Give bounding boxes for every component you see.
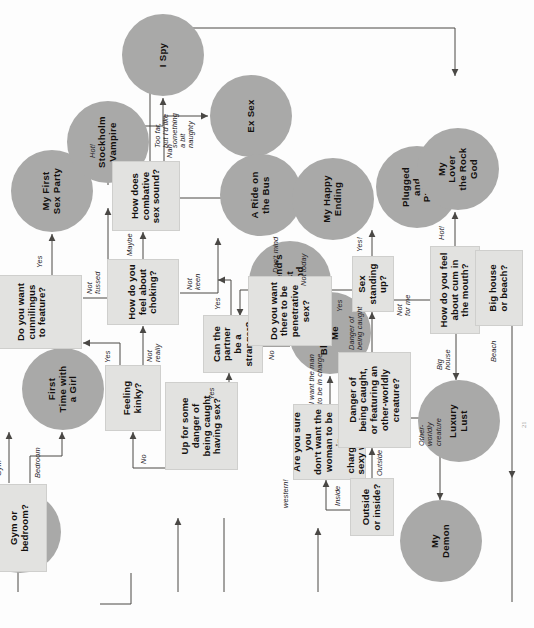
outcome-label: My Demon bbox=[430, 524, 451, 558]
edge-label-not-today: Not today bbox=[300, 253, 308, 286]
flowchart-page: Personal Training First Time with a Girl… bbox=[0, 0, 534, 628]
edge-label-yes-stranger: Yes bbox=[214, 297, 222, 310]
edge-label-not-fussed: Not fussed bbox=[86, 272, 103, 294]
decision-label: Sex standing up? bbox=[357, 259, 389, 309]
edge-label-man-in-charge: I want the man to be in charge bbox=[308, 354, 325, 404]
edge-label-hot-vampire: Hot! bbox=[89, 144, 97, 158]
edge-label-no-stranger: No bbox=[268, 350, 276, 360]
outcome-label: My Happy Ending bbox=[322, 175, 343, 223]
outcome-label: Ex Sex bbox=[246, 99, 257, 132]
decision-label: Do you want cunnilingus to feature? bbox=[16, 283, 48, 341]
decision-cunnilingus[interactable]: Do you want cunnilingus to feature? bbox=[0, 275, 82, 349]
edge-label-western: western! bbox=[282, 479, 290, 508]
outcome-ex-sex[interactable]: Ex Sex bbox=[210, 75, 292, 157]
decision-label: How do you feel about choking? bbox=[127, 264, 159, 319]
edge-label-maybe: Maybe bbox=[126, 233, 134, 256]
decision-label: How do you feel about cum in the mouth? bbox=[439, 252, 471, 327]
edge-label-not-keen: Not keen bbox=[186, 274, 203, 290]
outcome-label: My First Sex Party bbox=[41, 168, 62, 214]
decision-choking[interactable]: How do you feel about choking? bbox=[107, 259, 179, 325]
decision-other-worldly[interactable]: Danger of being caught, or featuring an … bbox=[338, 352, 411, 448]
edge-label-yes-penetrative: Yes bbox=[336, 299, 344, 312]
outcome-label: My Lover the Rock God bbox=[437, 148, 480, 191]
edge-label-outside: Outside bbox=[376, 450, 384, 476]
edge-label-yes-cunnilingus: Yes bbox=[36, 255, 44, 268]
decision-label: Gym or bedroom? bbox=[9, 504, 30, 552]
edge-label-dont-mind: Don't mind bbox=[272, 237, 280, 273]
edge-label-yes-standing: Yes! bbox=[356, 237, 364, 252]
outcome-rock-god[interactable]: My Lover the Rock God bbox=[417, 128, 499, 210]
page-number: 21 bbox=[520, 422, 527, 429]
edge-label-bedroom: Bedroom bbox=[34, 447, 42, 478]
edge-label-too-far: Too far, but I'd like something a bit na… bbox=[154, 113, 195, 148]
rotated-flowchart-canvas: Personal Training First Time with a Girl… bbox=[0, 0, 534, 628]
edge-label-gym: Gym bbox=[0, 460, 3, 476]
decision-gym-or-bedroom[interactable]: Gym or bedroom? bbox=[0, 484, 47, 572]
outcome-label: A Ride on the Bus bbox=[250, 171, 271, 218]
decision-feeling-kinky[interactable]: Feeling kinky? bbox=[105, 365, 161, 431]
decision-label: Danger of being caught, or featuring an … bbox=[348, 366, 402, 435]
edge-label-not-really: Not really bbox=[146, 344, 163, 362]
outcome-label: Luxury Lust bbox=[448, 404, 469, 438]
edge-label-other-worldly-creature: Other- worldly creature bbox=[418, 418, 443, 446]
edge-label-nah: Nah bbox=[166, 144, 174, 158]
decision-label: Up for some danger of being caught havin… bbox=[180, 396, 223, 457]
edge-label-inside: Inside bbox=[334, 486, 342, 506]
outcome-ride-on-the-bus[interactable]: A Ride on the Bus bbox=[220, 154, 302, 236]
outcome-my-happy-ending[interactable]: My Happy Ending bbox=[292, 158, 374, 240]
edge-label-no: No bbox=[140, 454, 148, 464]
outcome-first-time-girl[interactable]: First Time with a Girl bbox=[22, 348, 104, 430]
flowchart-canvas: Personal Training First Time with a Girl… bbox=[0, 0, 534, 628]
decision-label: Big house or beach? bbox=[488, 264, 509, 311]
decision-big-house-or-beach[interactable]: Big house or beach? bbox=[475, 250, 523, 326]
decision-label: Outside or inside? bbox=[361, 484, 382, 531]
outcome-label: I Spy bbox=[158, 43, 169, 67]
edge-label-danger-being-caught: Danger of being caught bbox=[348, 306, 365, 350]
outcome-my-demon[interactable]: My Demon bbox=[400, 500, 482, 582]
decision-cum-in-mouth[interactable]: How do you feel about cum in the mouth? bbox=[430, 246, 480, 334]
edge-label-hot-mouth: Hot! bbox=[438, 226, 446, 240]
decision-label: Do you want there to be penetrative sex? bbox=[269, 279, 312, 343]
decision-label: Feeling kinky? bbox=[122, 381, 143, 415]
decision-combative-sex[interactable]: How does combative sex sound? bbox=[112, 161, 180, 231]
outcome-i-spy[interactable]: I Spy bbox=[122, 14, 204, 96]
decision-penetrative-sex[interactable]: Do you want there to be penetrative sex? bbox=[248, 276, 332, 346]
edge-label-big-house: Big house bbox=[436, 349, 453, 370]
edge-label-yes-danger: Yes bbox=[208, 387, 216, 400]
edge-label-not-for-me: Not for me bbox=[396, 294, 413, 316]
decision-sex-standing-up[interactable]: Sex standing up? bbox=[352, 256, 394, 312]
decision-label: How does combative sex sound? bbox=[130, 169, 162, 223]
decision-danger-caught[interactable]: Up for some danger of being caught havin… bbox=[165, 382, 238, 470]
edge-label-yes-kinky: Yes bbox=[104, 350, 112, 363]
decision-outside-or-inside[interactable]: Outside or inside? bbox=[350, 478, 394, 536]
edge-label-beach: Beach bbox=[490, 341, 498, 362]
outcome-label: First Time with a Girl bbox=[47, 366, 79, 413]
